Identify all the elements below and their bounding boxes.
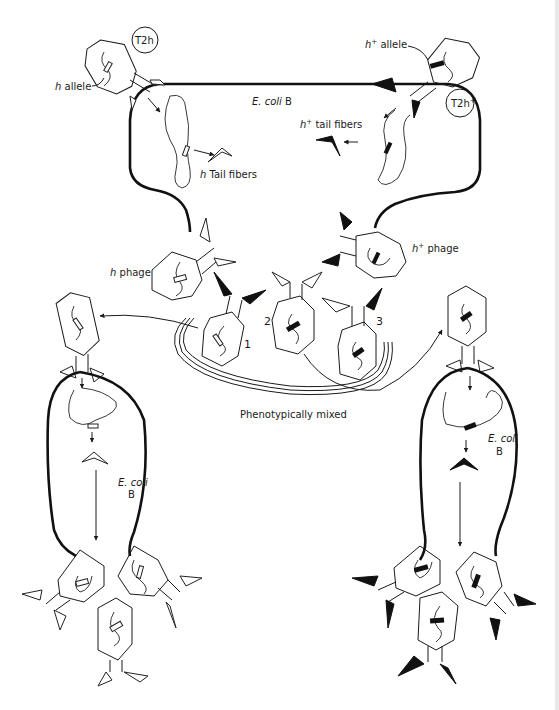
h-plus-tail-fiber-icon	[316, 136, 340, 156]
ecoli-right-label: E. coli	[488, 433, 518, 444]
phenotypic-mixing-diagram: T2h h allele E. coli B h Tail fibers T2h…	[0, 0, 559, 710]
left-infecting-phage	[55, 289, 104, 382]
h-plus-tail-fibers-label: h+ tail fibers	[300, 118, 362, 130]
right-ecoli-cell	[420, 368, 517, 560]
mixed-phage-3	[322, 288, 382, 380]
ecoli-top-label: E. coli B	[252, 96, 292, 107]
mixed-phage-1	[202, 272, 266, 366]
h-tail-fibers-label: h Tail fibers	[200, 169, 257, 180]
progeny-number-1: 1	[244, 338, 251, 351]
h-tail-fiber-icon	[208, 148, 232, 162]
arrow-to-right-infection	[304, 330, 442, 390]
left-progeny-phage-2	[118, 546, 202, 628]
h-plus-allele-pointer	[408, 46, 428, 60]
ecoli-left-strain: B	[128, 489, 135, 500]
mixed-phage-2	[272, 272, 322, 354]
right-progeny-phage-2	[456, 552, 536, 640]
page-edge-strip	[555, 0, 559, 710]
t2h-plus-label: T2h+	[450, 97, 476, 109]
h-plus-phage	[322, 212, 406, 278]
phenotypically-mixed-label: Phenotypically mixed	[240, 409, 347, 420]
h-plus-phage-label: h+ phage	[412, 242, 459, 254]
t2h-label: T2h	[134, 35, 154, 46]
left-progeny-phage-3	[98, 598, 148, 686]
phenotypically-mixed-bracket	[174, 318, 392, 395]
right-progeny-phage-1	[352, 546, 440, 628]
top-ecoli-cell	[130, 84, 480, 232]
ecoli-right-strain: B	[496, 446, 503, 457]
h-plus-allele-label: h+ allele	[365, 38, 407, 50]
left-ecoli-cell	[48, 372, 146, 556]
progeny-number-3: 3	[376, 315, 383, 328]
h-allele-pointer	[92, 78, 104, 86]
progeny-number-2: 2	[264, 315, 271, 328]
right-infecting-phage	[446, 286, 494, 372]
left-progeny-phage-1	[22, 550, 104, 630]
h-allele-label: h allele	[55, 81, 91, 92]
ecoli-left-label: E. coli	[118, 477, 148, 488]
right-progeny-phage-3	[398, 592, 458, 684]
h-phage-label: h phage	[110, 267, 151, 278]
